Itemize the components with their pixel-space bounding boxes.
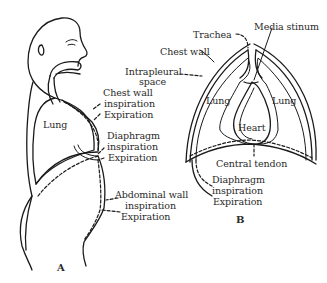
label-abdominal-wall-expiration: Expiration (121, 212, 170, 222)
label-heart: Heart (238, 123, 265, 133)
eye-icon (66, 40, 77, 45)
diagram-drawing (0, 0, 327, 283)
abdominal-wall-expiration-line (83, 156, 105, 266)
chest-front-outline (62, 100, 99, 150)
label-abdominal-wall: Abdominal wall (115, 190, 188, 200)
label-lung-right-b: Lung (272, 96, 296, 106)
panel-b-label: B (236, 214, 244, 225)
oral-cavity (50, 62, 81, 78)
label-lung-left-b: Lung (206, 96, 230, 106)
leader-diaphragm-b-inspiration (196, 160, 212, 186)
label-mediastinum: Media stinum (254, 22, 319, 32)
label-chest-wall-a: Chest wall (103, 88, 153, 98)
label-diaphragm-expiration-a: Expiration (108, 153, 157, 163)
chest-wall-inspiration-line (64, 102, 98, 152)
lung-right-outline (257, 58, 306, 160)
label-lung-a: Lung (43, 120, 67, 130)
label-trachea: Trachea (193, 30, 232, 40)
respiration-diagram: Lung Chest wall inspiration Expiration D… (0, 0, 327, 283)
diaphragm-b-inspiration (190, 140, 312, 158)
label-chest-wall-inspiration: inspiration (104, 99, 155, 109)
ear-icon (38, 45, 43, 55)
diaphragm-expiration-line (36, 152, 98, 184)
label-diaphragm-inspiration-b: inspiration (212, 186, 263, 196)
label-central-tendon: Central tendon (216, 159, 287, 169)
panel-a-figure (20, 18, 120, 270)
leader-chest-inspiration (92, 104, 100, 110)
label-chest-wall-expiration: Expiration (104, 110, 153, 120)
leader-abdominal-expiration (102, 210, 120, 212)
label-diaphragm-b: Diaphragm (212, 175, 265, 185)
mediastinum-leader (254, 28, 272, 80)
label-chest-wall-b: Chest wall (160, 47, 210, 57)
label-abdominal-wall-inspiration: inspiration (125, 201, 176, 211)
head-outline (28, 18, 87, 98)
panel-a-label: A (57, 262, 65, 273)
label-intrapleural-space: space (139, 77, 166, 87)
label-diaphragm-a: Diaphragm (107, 131, 160, 141)
leader-chest-expiration (94, 114, 100, 120)
leader-intrapleural (180, 74, 202, 76)
lung-outline (33, 98, 94, 184)
back-outline (25, 82, 33, 250)
label-diaphragm-inspiration-a: inspiration (107, 142, 158, 152)
label-diaphragm-expiration-b: Expiration (213, 197, 262, 207)
diaphragm-inspiration-line (38, 156, 98, 196)
abdominal-wall-inspiration-line (84, 160, 101, 240)
